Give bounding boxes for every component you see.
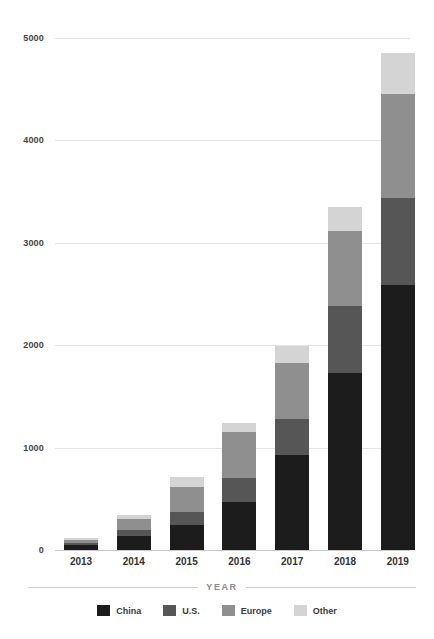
y-tick-label: 1000 bbox=[0, 443, 44, 453]
bar-segment-other-2018[interactable] bbox=[328, 207, 362, 231]
x-tick-label-2017: 2017 bbox=[262, 556, 322, 567]
y-tick-label: 5000 bbox=[0, 33, 44, 43]
bar-column-2017[interactable] bbox=[275, 346, 309, 550]
x-tick-label-2019: 2019 bbox=[368, 556, 428, 567]
legend-swatch-icon bbox=[294, 605, 307, 616]
legend-item-us[interactable]: U.S. bbox=[163, 605, 200, 616]
bar-segment-us-2015[interactable] bbox=[170, 512, 204, 525]
bar-segment-us-2016[interactable] bbox=[222, 478, 256, 502]
x-tick-label-2014: 2014 bbox=[104, 556, 164, 567]
chart-legend: ChinaU.S.EuropeOther bbox=[0, 605, 434, 616]
legend-item-china[interactable]: China bbox=[97, 605, 141, 616]
y-tick-label: 2000 bbox=[0, 340, 44, 350]
legend-item-europe[interactable]: Europe bbox=[222, 605, 272, 616]
legend-label: Europe bbox=[241, 606, 272, 616]
stacked-bar-chart: 010002000300040005000 201320142015201620… bbox=[0, 0, 434, 639]
x-axis-title-row: YEAR bbox=[28, 580, 416, 594]
y-tick-label: 4000 bbox=[0, 135, 44, 145]
bar-segment-other-2017[interactable] bbox=[275, 346, 309, 362]
y-tick-label: 3000 bbox=[0, 238, 44, 248]
bar-segment-china-2014[interactable] bbox=[117, 536, 151, 550]
x-tick-label-2013: 2013 bbox=[51, 556, 111, 567]
legend-swatch-icon bbox=[163, 605, 176, 616]
legend-swatch-icon bbox=[222, 605, 235, 616]
bar-segment-china-2015[interactable] bbox=[170, 525, 204, 550]
y-tick-label: 0 bbox=[0, 545, 44, 555]
plot-area bbox=[55, 38, 410, 550]
y-axis-tick-labels: 010002000300040005000 bbox=[0, 0, 50, 639]
legend-label: Other bbox=[313, 606, 337, 616]
bar-segment-china-2016[interactable] bbox=[222, 502, 256, 550]
bar-segment-other-2015[interactable] bbox=[170, 477, 204, 486]
bar-segment-china-2017[interactable] bbox=[275, 455, 309, 550]
bar-segment-europe-2017[interactable] bbox=[275, 363, 309, 419]
x-tick-label-2016: 2016 bbox=[209, 556, 269, 567]
bar-column-2018[interactable] bbox=[328, 207, 362, 550]
bar-column-2015[interactable] bbox=[170, 477, 204, 550]
x-tick-label-2015: 2015 bbox=[157, 556, 217, 567]
bar-segment-us-2017[interactable] bbox=[275, 419, 309, 455]
bar-segment-other-2019[interactable] bbox=[381, 53, 415, 94]
legend-swatch-icon bbox=[97, 605, 110, 616]
bar-segment-china-2013[interactable] bbox=[64, 545, 98, 550]
gridline-0 bbox=[55, 550, 410, 551]
x-axis-title: YEAR bbox=[206, 582, 237, 592]
bar-group bbox=[55, 38, 410, 550]
bar-column-2013[interactable] bbox=[64, 538, 98, 550]
bar-segment-china-2019[interactable] bbox=[381, 285, 415, 550]
bar-segment-europe-2016[interactable] bbox=[222, 432, 256, 478]
bar-segment-europe-2019[interactable] bbox=[381, 94, 415, 197]
axis-rule-right bbox=[246, 587, 416, 588]
x-tick-label-2018: 2018 bbox=[315, 556, 375, 567]
bar-segment-europe-2018[interactable] bbox=[328, 231, 362, 307]
legend-label: U.S. bbox=[182, 606, 200, 616]
bar-segment-us-2018[interactable] bbox=[328, 306, 362, 373]
legend-item-other[interactable]: Other bbox=[294, 605, 337, 616]
bar-segment-china-2018[interactable] bbox=[328, 373, 362, 550]
bar-column-2016[interactable] bbox=[222, 423, 256, 550]
bar-segment-europe-2014[interactable] bbox=[117, 519, 151, 529]
axis-rule-left bbox=[28, 587, 198, 588]
bar-segment-us-2019[interactable] bbox=[381, 198, 415, 285]
legend-label: China bbox=[116, 606, 141, 616]
bar-column-2014[interactable] bbox=[117, 515, 151, 550]
bar-segment-other-2016[interactable] bbox=[222, 423, 256, 432]
bar-segment-europe-2015[interactable] bbox=[170, 487, 204, 513]
bar-column-2019[interactable] bbox=[381, 53, 415, 550]
